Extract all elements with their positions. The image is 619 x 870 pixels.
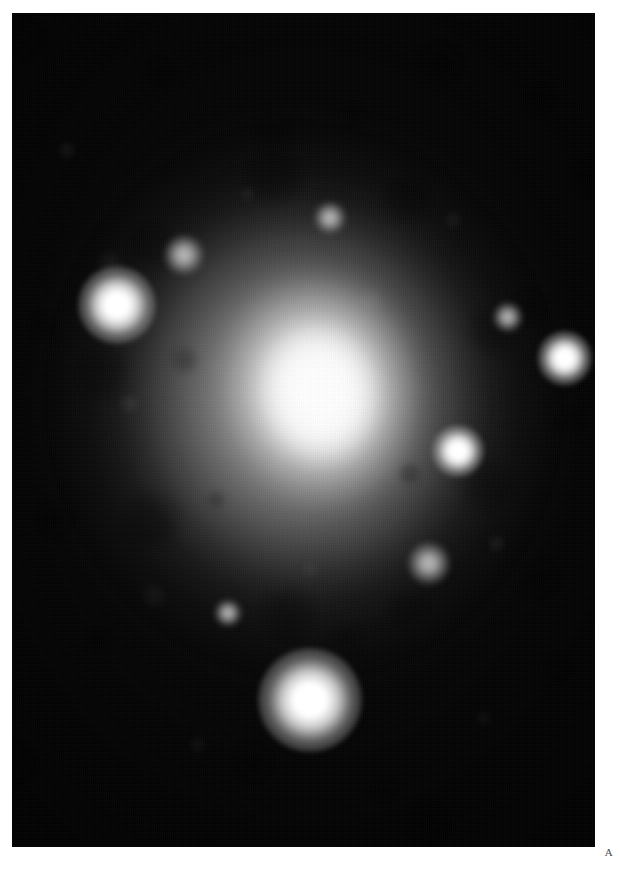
plate-page: A	[0, 0, 619, 870]
astronomical-image-frame	[12, 13, 595, 847]
plate-label: A	[605, 847, 613, 858]
